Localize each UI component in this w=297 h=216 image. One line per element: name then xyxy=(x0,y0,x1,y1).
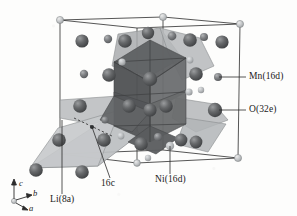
cell-corner-sphere xyxy=(134,160,141,167)
li-sphere xyxy=(198,87,204,93)
cell-corner-sphere xyxy=(234,154,241,161)
li-sphere xyxy=(118,58,125,65)
oxygen-sphere xyxy=(122,99,136,113)
axis-a-arrow xyxy=(22,206,28,210)
oxygen-sphere xyxy=(75,34,88,47)
li-sphere xyxy=(145,155,151,161)
metal-sphere xyxy=(101,116,108,123)
oxygen-sphere xyxy=(73,99,87,113)
oxygen-sphere xyxy=(143,72,157,86)
oxygen-sphere xyxy=(118,34,132,48)
axis-label-a: a xyxy=(29,203,33,213)
oxygen-sphere xyxy=(183,33,197,47)
cell-corner-sphere xyxy=(159,13,166,20)
axis-label-b: b xyxy=(33,188,37,198)
li-sphere xyxy=(185,88,192,95)
li-sphere xyxy=(187,57,194,64)
oxygen-sphere xyxy=(215,35,228,48)
oxygen-sphere xyxy=(159,99,173,113)
oxygen-sphere xyxy=(75,165,89,179)
oxygen-sphere xyxy=(142,27,154,39)
oxygen-sphere xyxy=(29,163,43,177)
oxygen-sphere xyxy=(189,67,203,81)
metal-sphere xyxy=(200,33,208,41)
label-mn: Mn(16d) xyxy=(249,71,283,81)
oxygen-sphere xyxy=(102,68,116,82)
metal-sphere xyxy=(154,133,162,141)
metal-sphere xyxy=(168,32,177,41)
li-sphere xyxy=(118,133,125,140)
oxygen-sphere xyxy=(175,134,188,147)
label-li: Li(8a) xyxy=(50,194,74,204)
metal-sphere xyxy=(80,70,88,78)
oxygen-sphere xyxy=(143,103,156,116)
oxygen-sphere xyxy=(190,136,203,149)
oxygen-sphere xyxy=(52,133,66,147)
label-16c: 16c xyxy=(101,178,115,188)
label-ni: Ni(16d) xyxy=(155,174,186,184)
axis-label-c: c xyxy=(19,178,23,188)
metal-sphere xyxy=(104,35,112,43)
oxygen-sphere xyxy=(97,133,111,147)
cell-corner-sphere xyxy=(56,16,63,23)
label-o: O(32e) xyxy=(249,104,277,114)
axis-c-arrow xyxy=(12,179,17,185)
oxygen-sphere xyxy=(134,137,148,151)
axis-b-arrow xyxy=(27,194,33,198)
cell-corner-sphere xyxy=(236,20,243,27)
